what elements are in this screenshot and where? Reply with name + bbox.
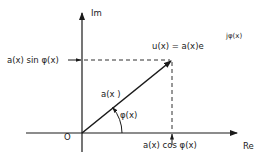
phasor-expression: u(x) = a(x)e [152, 41, 204, 51]
imaginary-part-label: a(x) sin φ(x) [7, 55, 59, 65]
angle-label: φ(x) [120, 110, 137, 120]
phasor-exponent: jφ(x) [225, 32, 242, 40]
real-axis-label: Re [243, 141, 254, 151]
imaginary-axis-label: Im [91, 8, 102, 18]
magnitude-label: a(x ) [101, 89, 121, 99]
phasor-diagram: Im Re O a(x ) φ(x) u(x) = a(x)e jφ(x) a(… [0, 0, 263, 156]
phasor-vector [82, 61, 171, 133]
real-part-label: a(x) cos φ(x) [143, 140, 197, 150]
origin-label: O [64, 132, 71, 142]
